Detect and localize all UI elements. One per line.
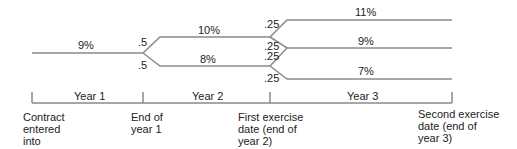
period-label-year3: Year 3 xyxy=(347,90,378,102)
prob-label: .5 xyxy=(138,36,147,48)
period-label-year1: Year 1 xyxy=(74,90,105,102)
prob-label: .25 xyxy=(264,50,279,62)
rate-label-7: 7% xyxy=(358,65,374,77)
rate-label-10: 10% xyxy=(198,24,220,36)
prob-label: .25 xyxy=(264,72,279,84)
point-label-end-year1: End of year 1 xyxy=(131,111,163,135)
period-label-year2: Year 2 xyxy=(192,90,223,102)
prob-label: .25 xyxy=(264,18,279,30)
branch-10pct xyxy=(143,37,270,53)
rate-label-11: 11% xyxy=(355,6,376,18)
point-label-first-exercise: First exercise date (end of year 2) xyxy=(238,111,303,147)
point-label-second-exercise: Second exercise date (end of year 3) xyxy=(418,108,499,144)
root-rate-label: 9% xyxy=(78,39,94,51)
rate-label-8: 8% xyxy=(200,53,216,65)
rate-label-9: 9% xyxy=(358,35,374,47)
point-label-contract: Contract entered into xyxy=(23,111,65,147)
prob-label: .5 xyxy=(138,59,147,71)
